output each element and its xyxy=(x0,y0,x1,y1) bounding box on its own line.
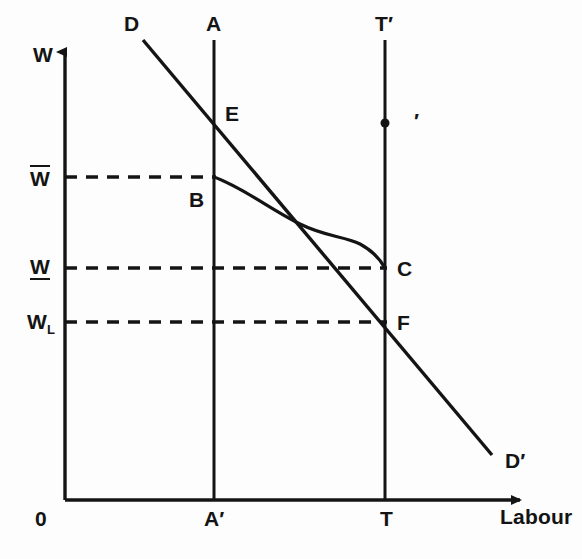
diagram-canvas xyxy=(0,0,582,559)
wage-label-w-bar: W xyxy=(30,165,50,189)
demand-curve-start-label: D xyxy=(124,13,139,34)
point-marker-prime-label: ′ xyxy=(414,110,419,131)
point-label-f: F xyxy=(397,312,410,333)
x-axis-label: Labour xyxy=(500,506,572,527)
point-marker-dot xyxy=(381,119,390,128)
demand-curve-end-label: D′ xyxy=(505,450,526,471)
line-t-bottom-label: T xyxy=(380,508,393,529)
demand-curve-line xyxy=(143,40,492,455)
line-a-top-label: A xyxy=(206,13,221,34)
point-label-c: C xyxy=(397,258,412,279)
point-label-e: E xyxy=(225,103,239,124)
effort-curve xyxy=(214,177,385,268)
line-t-top-label: T′ xyxy=(375,13,393,34)
point-label-b: B xyxy=(189,189,204,210)
wage-label-w-l-base: W xyxy=(27,310,47,333)
economics-diagram-figure: W Labour 0 W W WL A A′ T′ T D D′ E B C F… xyxy=(0,0,582,559)
origin-label: 0 xyxy=(35,508,47,529)
wage-label-w-l-subscript: L xyxy=(47,322,55,337)
line-a-bottom-label: A′ xyxy=(204,508,225,529)
y-axis-label: W xyxy=(33,44,53,65)
wage-label-w-l: WL xyxy=(27,311,55,336)
wage-label-w-under: W xyxy=(30,256,50,280)
